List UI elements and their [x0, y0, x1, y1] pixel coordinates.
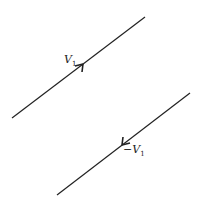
label-neg-v1: −V1	[123, 143, 145, 158]
label-v1: V1	[64, 53, 76, 68]
vector-v1	[12, 17, 145, 118]
vector-lines	[0, 0, 204, 202]
vector-diagram: V1 −V1	[0, 0, 204, 202]
